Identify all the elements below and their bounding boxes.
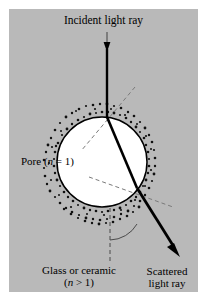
incident-ray-label: Incident light ray (9, 14, 198, 27)
pore-label: Pore (n = 1) (21, 155, 131, 167)
diagonal-arrow-icon (167, 243, 180, 257)
pore-label-suffix: = 1) (53, 155, 74, 167)
scattered-ray-label: Scattered light ray (137, 265, 197, 290)
scattered-ray-label-line2: light ray (137, 277, 197, 289)
glass-ceramic-label: Glass or ceramic (n > 1) (9, 264, 149, 289)
scattering-diagram-svg (9, 9, 198, 292)
scattered-ray-label-line1: Scattered (137, 265, 197, 277)
diagram-panel: Incident light ray Pore (n = 1) Glass or… (9, 9, 198, 292)
glass-ceramic-label-line1: Glass or ceramic (9, 264, 149, 276)
pore-label-prefix: Pore ( (21, 155, 48, 167)
scattered-ray-shaft (137, 188, 174, 247)
figure-root: Incident light ray Pore (n = 1) Glass or… (0, 0, 210, 304)
angle-arc-icon (110, 224, 137, 240)
glass-label-paren-close: > 1) (73, 276, 94, 288)
glass-ceramic-label-line2: (n > 1) (9, 276, 149, 288)
